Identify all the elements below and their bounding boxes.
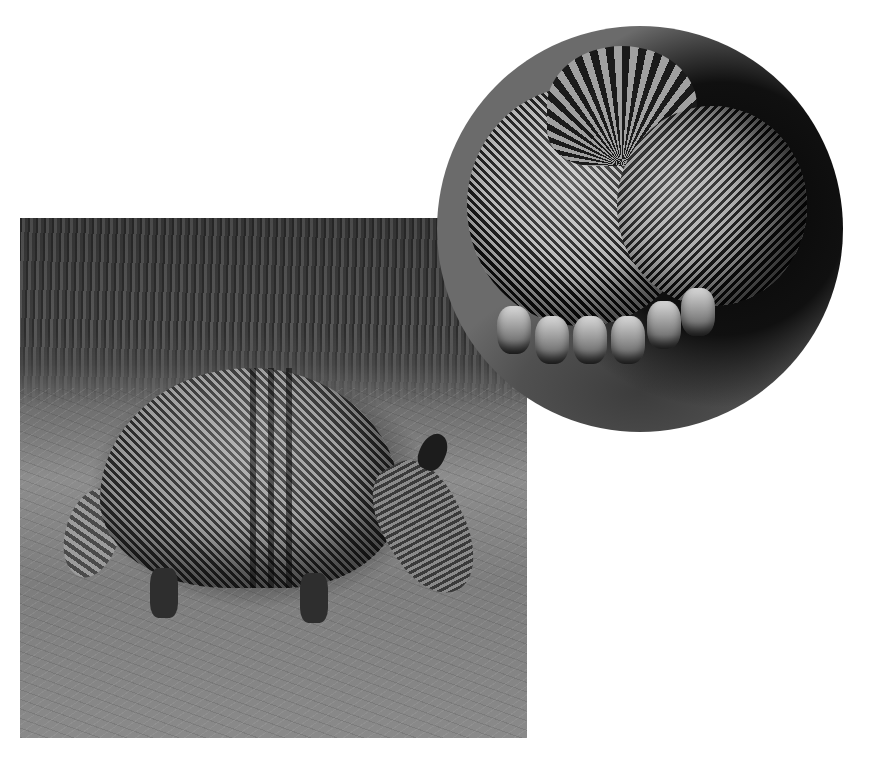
tail-ring — [611, 316, 645, 364]
tail-ring — [647, 301, 681, 349]
armadillo-leg — [300, 573, 328, 623]
tail-ring — [497, 306, 531, 354]
tail-ring — [681, 288, 715, 336]
shell-band — [250, 368, 256, 588]
curled-shell-right — [617, 106, 807, 306]
shell-band — [268, 368, 274, 588]
tail-ring — [573, 316, 607, 364]
inset-photo-circle — [437, 26, 843, 432]
armadillo-leg — [150, 568, 178, 618]
shell-band — [286, 368, 292, 588]
tail-ring — [535, 316, 569, 364]
